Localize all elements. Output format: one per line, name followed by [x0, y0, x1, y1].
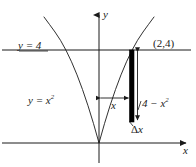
label-line-y-equals-4: y = 4 [18, 40, 41, 51]
label-curve-exponent: 2 [51, 93, 54, 100]
label-x-axis: x [183, 145, 188, 156]
label-intersection-point: (2,4) [153, 38, 174, 49]
figure-canvas [0, 0, 196, 167]
label-height-base: 4 − x [142, 97, 165, 109]
label-y-axis: y [103, 9, 108, 20]
label-rect-width: Δx [131, 124, 143, 135]
calculus-figure: y = 4 (2,4) y x y = x2 x 4 − x2 Δx [0, 0, 196, 167]
label-delta-var: x [138, 123, 143, 135]
label-rect-height: 4 − x2 [142, 98, 169, 109]
representative-rectangle [130, 50, 135, 122]
label-rect-offset: x [111, 100, 116, 111]
height-label-leader [138, 101, 141, 110]
label-height-exponent: 2 [165, 96, 168, 103]
label-curve-base: y = x [28, 94, 51, 106]
label-curve-equation: y = x2 [28, 95, 54, 106]
